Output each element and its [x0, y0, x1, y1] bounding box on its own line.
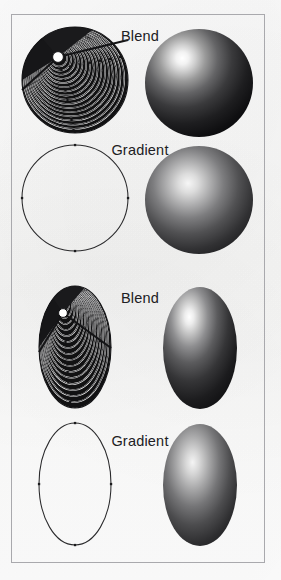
- sphere-gradient-body: [145, 146, 253, 254]
- row-label-blend-circle: Blend: [90, 28, 190, 44]
- row-label-gradient-circle: Gradient: [90, 142, 190, 158]
- illustration-figure: Blend: [0, 0, 281, 580]
- row-label-blend-ellipse: Blend: [90, 290, 190, 306]
- row-label-gradient-ellipse: Gradient: [90, 433, 190, 449]
